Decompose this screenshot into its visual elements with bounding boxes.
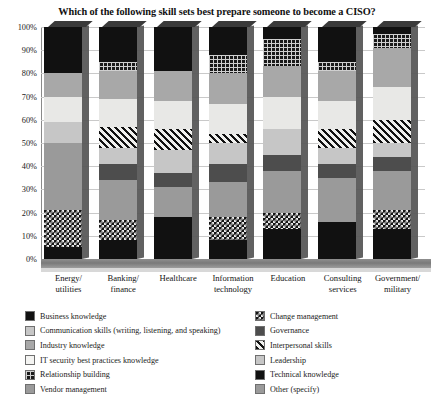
- bar-segment[interactable]: [209, 27, 247, 55]
- bar-top-face: [212, 21, 257, 27]
- bar-segment[interactable]: [318, 62, 356, 71]
- legend-swatch-icon: [255, 340, 265, 350]
- bar-segment[interactable]: [209, 164, 247, 183]
- bar-top-face: [48, 21, 93, 27]
- bar-segment[interactable]: [44, 247, 82, 259]
- bar-segment[interactable]: [99, 180, 137, 219]
- bar-segment[interactable]: [373, 157, 411, 171]
- legend-swatch-icon: [255, 355, 265, 365]
- legend-label: Governance: [270, 326, 309, 335]
- bar-segment[interactable]: [263, 213, 301, 229]
- legend-item[interactable]: Change management: [255, 309, 430, 324]
- bar-segment[interactable]: [318, 148, 356, 164]
- bar-top-face: [102, 21, 147, 27]
- plot-canvas: [41, 27, 425, 259]
- legend-swatch-icon: [25, 384, 35, 394]
- bar-segment[interactable]: [373, 48, 411, 87]
- bar-segment[interactable]: [154, 101, 192, 129]
- bar-2[interactable]: [99, 27, 137, 259]
- bar-segment[interactable]: [209, 55, 247, 74]
- bar-segment[interactable]: [318, 27, 356, 62]
- bar-segment[interactable]: [263, 27, 301, 39]
- bar-5[interactable]: [263, 27, 301, 259]
- bar-segment[interactable]: [263, 129, 301, 155]
- bar-segment[interactable]: [318, 101, 356, 129]
- bar-segment[interactable]: [373, 171, 411, 210]
- bar-segment[interactable]: [99, 164, 137, 180]
- bar-segment[interactable]: [209, 143, 247, 164]
- bar-segment[interactable]: [263, 97, 301, 129]
- bar-segment[interactable]: [209, 73, 247, 103]
- legend-item[interactable]: Business knowledge: [25, 309, 255, 324]
- legend-swatch-icon: [255, 311, 265, 321]
- bar-segment[interactable]: [209, 134, 247, 143]
- legend-item[interactable]: Industry knowledge: [25, 338, 255, 353]
- bar-segment[interactable]: [373, 27, 411, 34]
- bar-segment[interactable]: [373, 229, 411, 259]
- bar-segment[interactable]: [263, 155, 301, 171]
- bar-segment[interactable]: [99, 71, 137, 99]
- bar-7[interactable]: [373, 27, 411, 259]
- legend-item[interactable]: Technical knowledge: [255, 367, 430, 382]
- legend-label: Leadership: [270, 356, 306, 365]
- bar-segment[interactable]: [373, 210, 411, 229]
- bar-segment[interactable]: [154, 187, 192, 217]
- bar-segment[interactable]: [318, 164, 356, 178]
- bar-segment[interactable]: [373, 34, 411, 48]
- bar-segment[interactable]: [44, 143, 82, 210]
- bar-stack: [44, 27, 82, 259]
- bar-segment[interactable]: [99, 99, 137, 127]
- bar-segment[interactable]: [318, 129, 356, 148]
- bar-segment[interactable]: [154, 217, 192, 259]
- bar-segment[interactable]: [263, 229, 301, 259]
- bar-segment[interactable]: [209, 240, 247, 259]
- bar-segment[interactable]: [99, 240, 137, 259]
- y-axis-tick: 50%: [22, 139, 37, 148]
- bar-3[interactable]: [154, 27, 192, 259]
- legend-column-right: Change managementGovernanceInterpersonal…: [255, 309, 430, 397]
- bar-1[interactable]: [44, 27, 82, 259]
- bar-segment[interactable]: [99, 220, 137, 241]
- bar-segment[interactable]: [154, 150, 192, 173]
- bar-segment[interactable]: [373, 87, 411, 119]
- legend-item[interactable]: Other (specify): [255, 382, 430, 397]
- bar-side-face: [137, 26, 144, 259]
- legend-item[interactable]: Communication skills (writing, listening…: [25, 324, 255, 339]
- bar-segment[interactable]: [263, 171, 301, 213]
- bar-segment[interactable]: [44, 210, 82, 247]
- plot-area: 0%10%20%30%40%50%60%70%80%90%100% Energy…: [0, 27, 434, 277]
- bar-segment[interactable]: [44, 97, 82, 123]
- bar-segment[interactable]: [44, 122, 82, 143]
- legend-item[interactable]: Governance: [255, 324, 430, 339]
- bar-segment[interactable]: [99, 127, 137, 148]
- bar-segment[interactable]: [154, 129, 192, 150]
- legend-item[interactable]: Vendor management: [25, 382, 255, 397]
- bar-segment[interactable]: [373, 120, 411, 143]
- bar-segment[interactable]: [154, 173, 192, 187]
- bar-segment[interactable]: [99, 62, 137, 71]
- bar-segment[interactable]: [44, 27, 82, 73]
- bar-segment[interactable]: [154, 71, 192, 101]
- bar-segment[interactable]: [263, 66, 301, 96]
- bar-segment[interactable]: [318, 178, 356, 222]
- bar-segment[interactable]: [44, 73, 82, 96]
- bar-segment[interactable]: [99, 27, 137, 62]
- bar-segment[interactable]: [209, 182, 247, 217]
- x-axis-label-line: military: [362, 284, 433, 295]
- legend-item[interactable]: IT security best practices knowledge: [25, 353, 255, 368]
- bar-segment[interactable]: [154, 27, 192, 71]
- bar-segment[interactable]: [318, 71, 356, 101]
- bar-6[interactable]: [318, 27, 356, 259]
- bar-segment[interactable]: [209, 217, 247, 240]
- bar-segment[interactable]: [263, 39, 301, 67]
- legend-item[interactable]: Relationship building: [25, 367, 255, 382]
- bar-segment[interactable]: [99, 148, 137, 164]
- bar-segment[interactable]: [373, 143, 411, 157]
- legend-item[interactable]: Interpersonal skills: [255, 338, 430, 353]
- bar-4[interactable]: [209, 27, 247, 259]
- bar-segment[interactable]: [209, 104, 247, 134]
- legend-swatch-icon: [255, 384, 265, 394]
- legend-label: Industry knowledge: [40, 341, 105, 350]
- bar-segment[interactable]: [318, 222, 356, 259]
- legend-item[interactable]: Leadership: [255, 353, 430, 368]
